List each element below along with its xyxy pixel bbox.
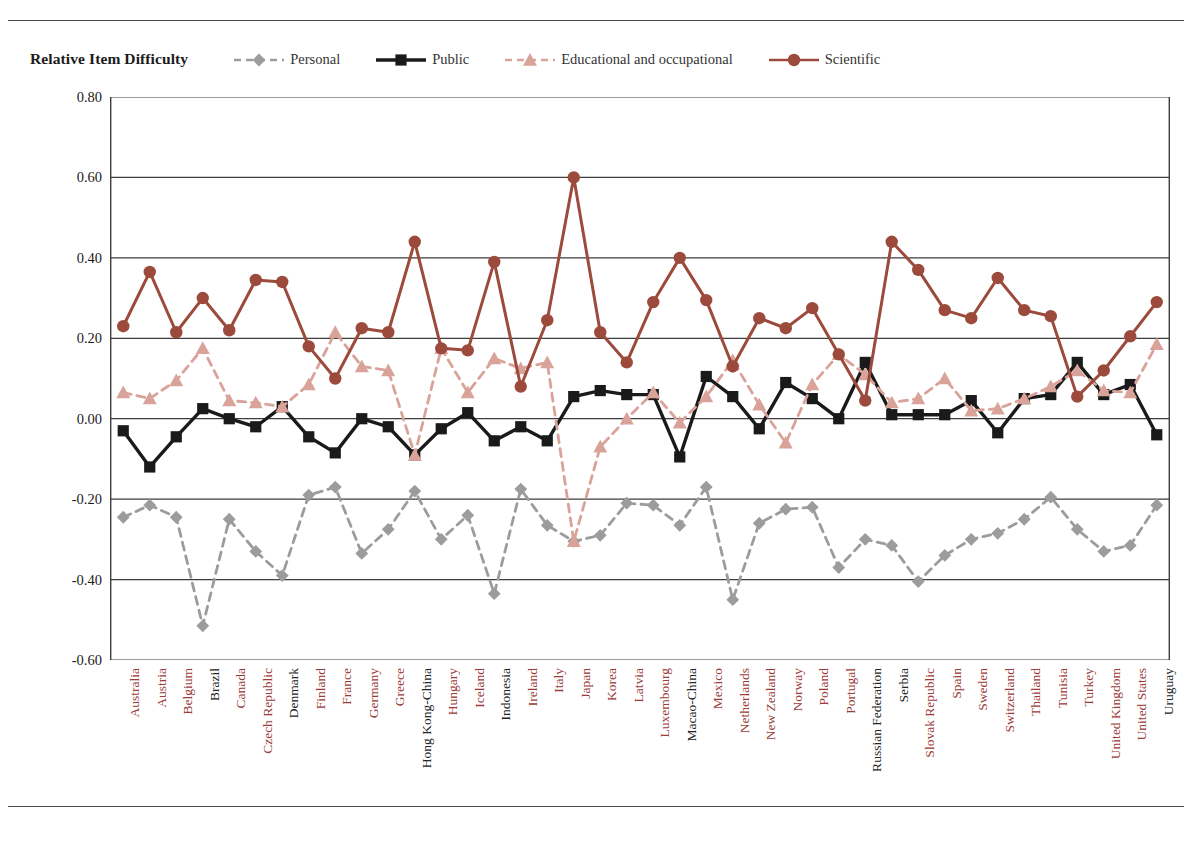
x-axis-tick-label: New Zealand [764, 668, 778, 740]
x-axis-tick-label: Russian Federation [870, 668, 884, 772]
data-point [780, 377, 791, 388]
data-point [117, 511, 130, 524]
x-axis-tick-label: Poland [817, 668, 831, 706]
data-point [356, 413, 367, 424]
data-point [621, 356, 633, 368]
data-point [224, 413, 235, 424]
data-point [541, 314, 553, 326]
data-point [860, 357, 871, 368]
data-point [833, 413, 844, 424]
circle-marker-icon [767, 52, 821, 66]
data-point [752, 398, 766, 411]
data-point [1151, 296, 1163, 308]
data-point [674, 451, 685, 462]
legend-item-scientific[interactable]: Scientific [767, 51, 881, 68]
page-title: Relative Item Difficulty [30, 50, 188, 68]
data-point [329, 481, 342, 494]
x-axis-tick-label: Germany [367, 668, 381, 718]
data-point [938, 372, 952, 385]
x-axis-tick-label: Hong Kong-China [420, 668, 434, 768]
data-point [303, 340, 315, 352]
x-axis-tick-label: Thailand [1029, 668, 1043, 716]
x-axis-tick-label: Tunisia [1056, 668, 1070, 708]
legend-item-public[interactable]: Public [374, 51, 469, 68]
x-axis-tick-label: Macao-China [685, 668, 699, 741]
data-point [302, 378, 316, 391]
x-axis-tick-label: France [340, 668, 354, 705]
x-axis-tick-label: Indonesia [499, 668, 513, 720]
data-point [753, 517, 766, 530]
data-point [1151, 429, 1162, 440]
data-point [250, 421, 261, 432]
data-point [594, 326, 606, 338]
data-point [939, 409, 950, 420]
x-axis-tick-label: Austria [155, 668, 169, 708]
data-point [1071, 390, 1083, 402]
x-axis-tick-label: Spain [950, 668, 964, 699]
data-point [409, 236, 421, 248]
data-point [806, 501, 819, 514]
data-point [487, 351, 501, 364]
data-point [965, 533, 978, 546]
data-point [488, 256, 500, 268]
data-point [912, 575, 925, 588]
data-point [1018, 304, 1030, 316]
x-axis-tick-label: Sweden [976, 668, 990, 711]
legend-item-personal[interactable]: Personal [232, 51, 340, 68]
data-point [992, 272, 1004, 284]
data-point [542, 435, 553, 446]
x-axis-tick-label: Korea [605, 668, 619, 701]
data-point [196, 619, 209, 632]
data-point [886, 409, 897, 420]
x-axis-tick-label: Serbia [897, 668, 911, 703]
data-point [196, 341, 210, 354]
data-point [356, 322, 368, 334]
legend-item-educational-and-occupational[interactable]: Educational and occupational [503, 51, 733, 68]
x-axis-tick-label: Denmark [287, 668, 301, 718]
data-point [197, 292, 209, 304]
data-point [780, 322, 792, 334]
legend-label: Educational and occupational [561, 51, 733, 68]
x-axis-tick-label: Belgium [181, 668, 195, 715]
data-point [727, 391, 738, 402]
x-axis-tick-label: Mexico [711, 668, 725, 709]
chart-header: Relative Item Difficulty PersonalPublicE… [30, 44, 1160, 74]
data-point [462, 407, 473, 418]
chart-page: Relative Item Difficulty PersonalPublicE… [0, 0, 1192, 845]
y-axis-tick-label: -0.40 [32, 571, 102, 588]
x-axis-tick-label: Czech Republic [261, 668, 275, 754]
data-point [117, 320, 129, 332]
data-point [171, 431, 182, 442]
data-point [991, 527, 1004, 540]
x-axis-tick-label: Slovak Republic [923, 668, 937, 758]
data-point [488, 587, 501, 600]
data-point [435, 342, 447, 354]
x-axis-tick-label: Brazil [208, 668, 222, 701]
data-point [170, 511, 183, 524]
data-point [1097, 545, 1110, 558]
x-axis-tick-label: Latvia [632, 668, 646, 702]
data-point [169, 374, 183, 387]
x-axis-tick-label: Luxembourg [658, 668, 672, 738]
data-point [832, 561, 845, 574]
data-point [779, 503, 792, 516]
series-line-scientific [123, 177, 1157, 400]
series-line-personal [123, 487, 1157, 626]
data-point [859, 533, 872, 546]
data-point [886, 236, 898, 248]
data-point [992, 427, 1003, 438]
square-marker-icon [374, 52, 428, 66]
data-point [250, 274, 262, 286]
data-point [170, 326, 182, 338]
data-point [436, 423, 447, 434]
y-axis-tick-label: 0.00 [32, 410, 102, 427]
data-point [833, 348, 845, 360]
data-point [754, 423, 765, 434]
data-point [647, 296, 659, 308]
triangle-marker-icon [503, 52, 557, 66]
x-axis-tick-label: Japan [579, 668, 593, 699]
data-point [144, 266, 156, 278]
x-axis-tick-label: Italy [552, 668, 566, 693]
x-axis-tick-label: Switzerland [1003, 668, 1017, 732]
data-point [330, 447, 341, 458]
